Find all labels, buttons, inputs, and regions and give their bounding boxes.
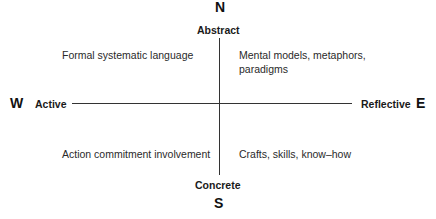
- pole-abstract-label: Abstract: [197, 24, 240, 36]
- compass-west-label: W: [10, 96, 23, 110]
- pole-active-label: Active: [35, 98, 67, 110]
- compass-north-label: N: [215, 0, 225, 14]
- quadrant-top-right-text: Mental models, metaphors, paradigms: [239, 48, 366, 76]
- pole-concrete-label: Concrete: [195, 179, 241, 191]
- quadrant-text-line: Formal systematic language: [62, 48, 193, 62]
- horizontal-axis-active-reflective: [72, 103, 352, 104]
- quadrant-top-left-text: Formal systematic language: [62, 48, 193, 62]
- knowledge-compass-diagram: N S W E Abstract Concrete Active Reflect…: [0, 0, 436, 219]
- quadrant-text-line: Crafts, skills, know–how: [239, 147, 351, 161]
- compass-south-label: S: [214, 196, 223, 210]
- quadrant-text-line: Action commitment involvement: [62, 147, 210, 161]
- vertical-axis-abstract-concrete: [219, 38, 220, 175]
- pole-reflective-label: Reflective: [361, 98, 411, 110]
- quadrant-bottom-right-text: Crafts, skills, know–how: [239, 147, 351, 161]
- compass-east-label: E: [416, 96, 425, 110]
- quadrant-bottom-left-text: Action commitment involvement: [62, 147, 210, 161]
- quadrant-text-line: paradigms: [239, 62, 366, 76]
- quadrant-text-line: Mental models, metaphors,: [239, 48, 366, 62]
